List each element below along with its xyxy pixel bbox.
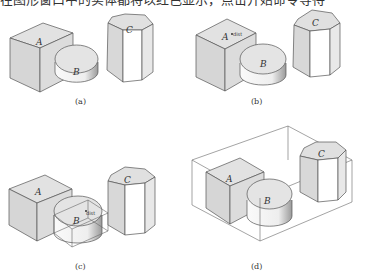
label-b: B — [259, 59, 267, 69]
caption-d: (d) — [251, 262, 262, 271]
label-c: C — [124, 175, 131, 185]
caption-a: (a) — [75, 97, 86, 106]
figure-b: A dist B C — [196, 10, 340, 91]
label-a: A — [221, 32, 229, 42]
figure-canvas: A B C A dist B C — [0, 0, 365, 279]
cursor-tooltip: dist — [86, 210, 95, 216]
label-b: B — [263, 196, 271, 206]
solid-c-hexprism — [108, 167, 155, 235]
label-b: B — [72, 67, 80, 77]
figure-a: A B C — [10, 14, 153, 92]
caption-b: (b) — [251, 97, 262, 106]
figure-c: A B dist C — [9, 167, 155, 247]
label-c: C — [126, 25, 133, 35]
label-a: A — [35, 37, 43, 47]
label-b: B — [72, 216, 80, 226]
label-a: A — [34, 187, 42, 197]
label-a: A — [225, 174, 233, 184]
cursor-tooltip: dist — [233, 31, 242, 37]
figure-d: A B C — [192, 126, 352, 241]
label-c: C — [318, 149, 325, 159]
caption-c: (c) — [75, 262, 86, 271]
cursor-icon — [231, 33, 233, 35]
label-c: C — [312, 18, 319, 28]
